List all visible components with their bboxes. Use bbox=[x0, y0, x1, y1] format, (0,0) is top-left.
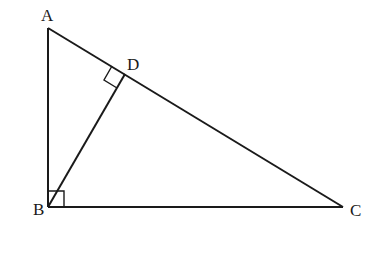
triangle-figure bbox=[0, 0, 383, 253]
segment-bd bbox=[48, 74, 125, 207]
label-c: C bbox=[350, 202, 361, 219]
label-d: D bbox=[127, 56, 139, 73]
segment-ac bbox=[48, 28, 343, 207]
label-a: A bbox=[41, 7, 53, 24]
diagram-canvas: A B C D bbox=[0, 0, 383, 253]
label-b: B bbox=[33, 201, 44, 218]
